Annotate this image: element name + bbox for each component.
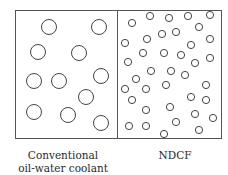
- droplet-circle-icon: [166, 103, 173, 110]
- droplet-circle-icon: [172, 118, 179, 125]
- droplet-circle-icon: [61, 108, 76, 123]
- droplet-circle-icon: [177, 51, 184, 58]
- droplet-circle-icon: [142, 85, 149, 92]
- droplet-circle-icon: [72, 46, 87, 61]
- diagram-frame: [16, 11, 222, 139]
- droplet-circle-icon: [187, 93, 194, 100]
- droplet-circle-icon: [94, 69, 109, 84]
- droplet-circle-icon: [181, 71, 188, 78]
- droplet-circle-icon: [209, 114, 216, 121]
- droplet-circle-icon: [195, 126, 202, 133]
- droplet-circle-icon: [202, 81, 209, 88]
- droplet-circle-icon: [128, 96, 135, 103]
- conventional-coolant-droplets: [27, 20, 109, 131]
- droplet-circle-icon: [42, 20, 57, 35]
- conventional-label: Conventional oil-water coolant: [12, 149, 114, 175]
- droplet-circle-icon: [139, 49, 146, 56]
- droplet-circle-icon: [92, 20, 107, 35]
- droplet-circle-icon: [94, 116, 109, 131]
- droplet-circle-icon: [125, 122, 132, 129]
- droplet-circle-icon: [206, 54, 213, 61]
- conventional-label-line1: Conventional: [12, 149, 114, 162]
- ndcf-label-line1: NDCF: [124, 149, 226, 162]
- droplet-circle-icon: [143, 35, 150, 42]
- droplet-circle-icon: [187, 41, 194, 48]
- droplet-circle-icon: [52, 74, 67, 89]
- droplet-circle-icon: [172, 28, 179, 35]
- droplet-circle-icon: [121, 85, 128, 92]
- conventional-label-line2: oil-water coolant: [12, 162, 114, 175]
- droplet-circle-icon: [27, 105, 42, 120]
- droplet-circle-icon: [162, 81, 169, 88]
- droplet-circle-icon: [165, 14, 172, 21]
- droplet-circle-icon: [160, 49, 167, 56]
- droplet-circle-icon: [158, 30, 165, 37]
- droplet-circle-icon: [191, 59, 198, 66]
- droplet-circle-icon: [132, 75, 139, 82]
- droplet-circle-icon: [191, 110, 198, 117]
- droplet-circle-icon: [142, 106, 149, 113]
- droplet-circle-icon: [160, 130, 167, 137]
- droplet-circle-icon: [202, 96, 209, 103]
- droplet-circle-icon: [167, 67, 174, 74]
- droplet-circle-icon: [128, 19, 135, 26]
- droplet-circle-icon: [79, 90, 94, 105]
- droplet-circle-icon: [195, 23, 202, 30]
- droplet-circle-icon: [206, 11, 213, 18]
- ndcf-label: NDCF: [124, 149, 226, 162]
- droplet-circle-icon: [142, 122, 149, 129]
- droplet-circle-icon: [147, 67, 154, 74]
- droplet-circle-icon: [146, 12, 153, 19]
- ndcf-droplets: [121, 11, 216, 137]
- droplet-circle-icon: [31, 45, 46, 60]
- droplet-circle-icon: [206, 35, 213, 42]
- droplet-circle-icon: [184, 12, 191, 19]
- droplet-circle-icon: [124, 58, 131, 65]
- droplet-circle-icon: [27, 74, 42, 89]
- droplet-circle-icon: [121, 39, 128, 46]
